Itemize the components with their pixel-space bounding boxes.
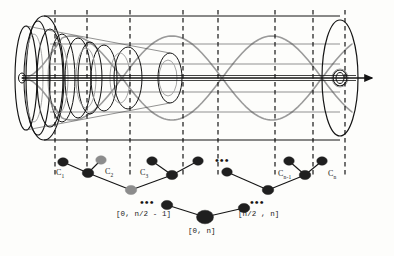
tree-internal-node-l1 <box>161 200 173 209</box>
tree-leaf-node-cn <box>317 157 328 165</box>
diagram-svg <box>0 0 394 256</box>
tree-internal-node-i1 <box>82 168 94 177</box>
ellipsis-dots-left-low: ••• <box>140 197 155 208</box>
tree-edge-6 <box>227 172 268 190</box>
interval-root-interval: [0, n] <box>188 227 216 235</box>
tree-leaf-node-c4 <box>193 157 204 165</box>
tree-leaf-node-c1 <box>58 158 69 166</box>
cluster-label-subscript: 3 <box>146 173 149 179</box>
tree-leaf-node-cn1 <box>284 157 295 165</box>
tree-leaf-node-c5 <box>222 168 233 176</box>
cluster-label-subscript: 2 <box>111 172 114 178</box>
cluster-label-cn1: Cn-1 <box>278 169 291 180</box>
cluster-label-c3: C3 <box>140 168 149 179</box>
cluster-label-c1: C1 <box>56 168 65 179</box>
cluster-label-c2: C2 <box>105 167 114 178</box>
tree-leaf-node-c3 <box>147 157 158 165</box>
interval-left-interval: [0, n/2 - 1] <box>116 210 171 218</box>
tree-internal-node-i2 <box>166 170 178 179</box>
tree-leaf-node-c2 <box>96 156 107 164</box>
interval-right-interval: [n/2 , n] <box>238 210 279 218</box>
figure-canvas: C1C2C3Cn-1Cn[0, n/2 - 1][n/2 , n][0, n]•… <box>0 0 394 256</box>
tree-internal-node-root <box>197 210 214 224</box>
cluster-label-subscript: n <box>334 174 337 180</box>
cluster-label-subscript: n-1 <box>284 174 292 180</box>
cluster-boundary-dashed-lines <box>55 10 345 175</box>
tree-internal-node-i4 <box>262 185 274 194</box>
tree-edge-5 <box>131 175 172 190</box>
ellipsis-dots-right-low: ••• <box>250 197 265 208</box>
cluster-label-subscript: 1 <box>62 173 65 179</box>
tree-internal-node-i3 <box>125 185 137 194</box>
tree-internal-node-i5 <box>299 170 311 179</box>
cluster-label-cn: Cn <box>328 169 337 180</box>
ellipsis-dots-mid-top: ••• <box>215 155 230 166</box>
